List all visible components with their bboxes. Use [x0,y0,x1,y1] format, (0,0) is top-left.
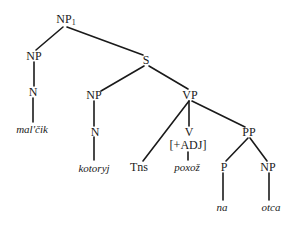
edge-s-np [101,66,144,91]
node-vp: VP [182,89,197,101]
syntax-tree-diagram: NP1 NP N mal'čik S NP N kotoryj VP Tns V… [0,0,293,225]
node-np-obj: NP [260,161,275,173]
node-p: P [221,161,228,173]
node-n-rel: N [91,126,100,138]
node-word-malcik: mal'čik [16,124,48,135]
node-word-otca: otca [262,202,281,213]
node-v: V [185,126,194,138]
node-np1-subscript: 1 [72,18,76,27]
edge-vp-tns [143,101,189,161]
edge-vp-pp [192,101,245,127]
node-np1-label: NP [56,12,71,26]
tree-edges [0,0,293,225]
node-word-kotoryj: kotoryj [78,163,109,174]
node-np-left: NP [26,50,41,62]
node-tns: Tns [130,161,148,173]
node-v-feature: [+ADJ] [170,139,207,151]
edge-np1-s [67,27,143,55]
node-word-na: na [217,202,228,213]
node-s: S [143,54,150,66]
edge-pp-p [226,138,248,161]
edge-s-vp [149,66,188,89]
node-n-left: N [29,86,38,98]
edge-np1-np [36,27,63,50]
node-word-poxoz: poxož [174,162,200,173]
node-np1: NP1 [56,13,75,27]
node-pp: PP [242,126,255,138]
edge-pp-np [250,138,267,161]
node-np-rel: NP [86,89,101,101]
